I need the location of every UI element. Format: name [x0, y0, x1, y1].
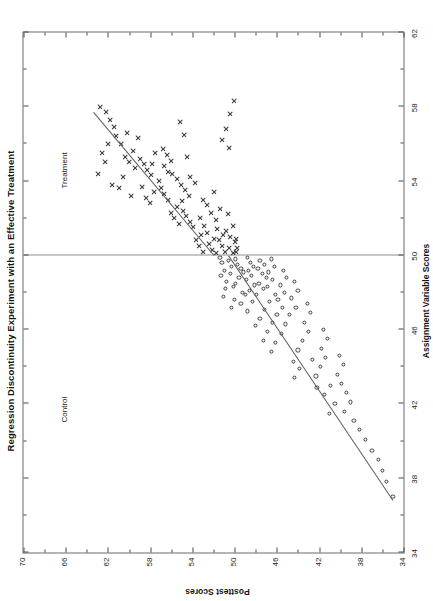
data-point-treatment: [214, 226, 219, 231]
data-point-control: [236, 275, 240, 279]
data-point-control: [265, 284, 269, 288]
data-point-control: [272, 264, 276, 268]
y-axis-minor-tick: [171, 549, 172, 552]
x-axis-tick: [398, 402, 403, 403]
data-point-control: [270, 277, 274, 281]
y-axis-tick: [319, 32, 320, 37]
data-point-control: [257, 316, 261, 320]
data-point-treatment: [132, 165, 137, 170]
data-point-treatment: [180, 208, 185, 213]
data-point-control: [224, 279, 228, 283]
data-point-control: [233, 256, 237, 260]
data-point-control: [265, 329, 269, 333]
data-point-control: [328, 383, 332, 387]
data-point-control: [266, 269, 270, 273]
data-point-control: [232, 297, 236, 301]
y-axis-minor-tick: [255, 32, 256, 35]
data-point-control: [292, 279, 296, 283]
data-point-control: [287, 312, 291, 316]
data-point-control: [280, 305, 284, 309]
data-point-control: [269, 349, 273, 353]
y-axis-minor-tick: [297, 32, 298, 35]
x-axis-minor-tick: [23, 291, 26, 292]
data-point-treatment: [102, 160, 107, 165]
data-point-control: [376, 457, 380, 461]
data-point-control: [305, 301, 309, 305]
x-axis-minor-tick: [400, 68, 403, 69]
data-point-treatment: [227, 111, 232, 116]
data-point-control: [384, 479, 388, 483]
data-point-control: [313, 373, 317, 377]
data-point-control: [292, 375, 296, 379]
data-point-control: [332, 401, 336, 405]
y-axis-tick: [150, 547, 151, 552]
data-point-control: [250, 299, 254, 303]
data-point-treatment: [225, 212, 230, 217]
x-axis-tick-label: 38: [409, 474, 418, 483]
data-point-treatment: [233, 236, 238, 241]
data-point-control: [363, 437, 367, 441]
data-point-control: [269, 256, 273, 260]
data-point-treatment: [116, 186, 121, 191]
data-point-treatment: [183, 213, 188, 218]
data-point-control: [325, 336, 329, 340]
data-point-control: [277, 282, 281, 286]
data-point-control: [310, 357, 314, 361]
y-axis-tick: [403, 32, 404, 37]
data-point-treatment: [211, 236, 216, 241]
data-point-treatment: [107, 117, 112, 122]
data-point-treatment: [179, 199, 184, 204]
data-point-treatment: [213, 217, 218, 222]
data-point-control: [218, 273, 222, 277]
y-axis-tick: [276, 547, 277, 552]
data-point-treatment: [176, 221, 181, 226]
x-axis-tick: [398, 477, 403, 478]
data-point-treatment: [226, 145, 231, 150]
data-point-treatment: [219, 137, 224, 142]
data-point-control: [380, 468, 384, 472]
data-point-treatment: [124, 130, 129, 135]
data-point-treatment: [120, 174, 125, 179]
data-point-control: [245, 308, 249, 312]
data-point-treatment: [208, 210, 213, 215]
data-point-treatment: [130, 148, 135, 153]
data-point-control: [262, 262, 266, 266]
data-point-treatment: [143, 195, 148, 200]
data-point-treatment: [147, 200, 152, 205]
x-axis-minor-tick: [23, 514, 26, 515]
data-point-control: [257, 258, 261, 262]
data-point-treatment: [122, 154, 127, 159]
y-axis-tick: [23, 547, 24, 552]
data-point-control: [351, 418, 355, 422]
y-axis-title-text: Posttest Scores: [184, 587, 248, 597]
y-axis-tick: [234, 32, 235, 37]
y-axis-tick: [192, 32, 193, 37]
regression-line-control: [228, 255, 393, 501]
data-point-control: [291, 359, 295, 363]
data-point-treatment: [223, 126, 228, 131]
plot-area: ControlTreatment: [22, 31, 404, 553]
data-point-treatment: [186, 193, 191, 198]
data-point-treatment: [216, 238, 221, 243]
x-axis-minor-tick: [400, 365, 403, 366]
data-point-control: [228, 271, 232, 275]
y-axis-title: Posttest Scores: [0, 585, 433, 599]
x-axis-minor-tick: [23, 365, 26, 366]
data-point-treatment: [200, 197, 205, 202]
data-point-control: [273, 292, 277, 296]
x-axis-title: Assignment Variable Scores: [420, 0, 430, 601]
y-axis-minor-tick: [340, 32, 341, 35]
x-axis-tick: [398, 328, 403, 329]
data-point-control: [264, 275, 268, 279]
data-point-treatment: [204, 230, 209, 235]
x-axis-tick: [23, 180, 28, 181]
data-point-control: [252, 282, 256, 286]
x-axis-tick-label: 62: [409, 29, 418, 38]
group-label-control: Control: [59, 396, 68, 422]
data-point-treatment: [174, 176, 179, 181]
data-point-control: [229, 264, 233, 268]
y-axis-minor-tick: [44, 549, 45, 552]
x-axis-tick: [398, 551, 403, 552]
data-point-treatment: [144, 167, 149, 172]
data-point-control: [220, 294, 224, 298]
